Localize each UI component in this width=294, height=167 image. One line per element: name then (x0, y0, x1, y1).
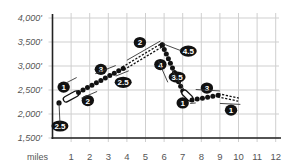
grade-badge-label: 2.5 (118, 78, 130, 87)
trail-dot (166, 56, 171, 61)
trail-dot (112, 71, 117, 76)
trail-dot (76, 90, 81, 95)
grade-badge-label: 2 (86, 97, 91, 106)
y-tick-label: 3,000' (18, 61, 43, 71)
y-tick-label: 2,500' (17, 85, 43, 95)
grade-badge-label: 1 (229, 106, 234, 115)
x-tick-label: 3 (106, 151, 111, 162)
x-tick-label: 11 (252, 151, 262, 162)
trail-dot (168, 61, 173, 66)
y-tick-label: 2,000' (17, 109, 43, 119)
x-tick-label: 5 (143, 151, 148, 162)
trail-dot (162, 47, 167, 52)
x-tick-label: 6 (161, 151, 166, 162)
trail-dot (164, 52, 169, 57)
trail-dot (116, 68, 121, 73)
trail-dot (195, 97, 200, 102)
trail-dot (190, 98, 195, 103)
profile-line (56, 42, 238, 105)
x-tick-label: 2 (87, 151, 92, 162)
grade-badge-label: 3 (99, 65, 104, 74)
grade-badge-label: 2.5 (54, 122, 66, 131)
grid (49, 13, 280, 142)
trail-dot (94, 80, 99, 85)
grade-badge-label: 1 (180, 99, 185, 108)
trail-dot (81, 88, 86, 93)
x-tick-label: 4 (124, 151, 129, 162)
x-tick-labels: 123456789101112 (68, 151, 281, 162)
x-tick-label: 1 (68, 151, 73, 162)
elevation-chart: 1,500'2,000'2,500'3,000'3,500'4,000' 123… (0, 0, 294, 167)
trail-dot (89, 83, 94, 88)
x-tick-label: 8 (199, 151, 204, 162)
grade-badge-label: 3.5 (172, 73, 184, 82)
y-tick-label: 4,000' (18, 13, 43, 23)
x-axis-label: miles (27, 152, 49, 162)
trail-dot (205, 95, 210, 100)
trail-dot (210, 94, 215, 99)
axes (52, 14, 282, 139)
x-tick-label: 12 (270, 151, 281, 162)
grade-badge-label: 2 (138, 38, 143, 47)
grade-badge-label: 1 (61, 83, 66, 92)
y-tick-labels: 1,500'2,000'2,500'3,000'3,500'4,000' (17, 13, 43, 143)
trail-dot (103, 76, 108, 81)
trail-dot (85, 85, 90, 90)
y-tick-label: 3,500' (18, 37, 43, 47)
x-tick-label: 9 (217, 151, 222, 162)
trail-dot (200, 96, 205, 101)
y-tick-label: 1,500' (18, 133, 43, 143)
x-tick-label: 10 (233, 151, 244, 162)
grade-badge-label: 4.5 (183, 47, 195, 56)
trail-dot (170, 65, 175, 70)
x-tick-label: 7 (180, 151, 185, 162)
trail-dot (107, 73, 112, 78)
trail-dot (98, 78, 103, 83)
grade-badge-label: 3 (205, 84, 210, 93)
